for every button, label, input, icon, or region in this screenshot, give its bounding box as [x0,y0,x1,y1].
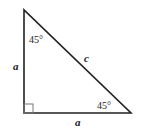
right-angle-marker [24,104,33,113]
hypotenuse-label: c [84,52,89,64]
triangle-outline [24,10,131,113]
bottom-side-label: a [75,116,81,128]
bottom-right-angle-label: 45° [97,100,111,111]
triangle-diagram: a a c 45° 45° [0,0,143,129]
left-side-label: a [13,60,19,72]
top-angle-label: 45° [29,34,43,45]
